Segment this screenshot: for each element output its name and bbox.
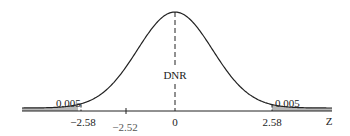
normal-curve <box>22 12 332 108</box>
tick-label-2-58: 2.58 <box>262 116 282 128</box>
tick-label-neg-2-58: −2.58 <box>70 116 96 128</box>
left-tail-area-label: 0.005 <box>56 97 81 109</box>
tick-label-neg-2-52: −2.52 <box>112 121 137 133</box>
dnr-label: DNR <box>163 69 187 81</box>
normal-curve-chart: 0.005 0.005 DNR −2.58 −2.52 0 2.58 Z <box>0 0 350 136</box>
tick-label-zero: 0 <box>172 116 178 128</box>
axis-label-z: Z <box>326 115 333 127</box>
right-tail-area-label: 0.005 <box>275 97 300 109</box>
